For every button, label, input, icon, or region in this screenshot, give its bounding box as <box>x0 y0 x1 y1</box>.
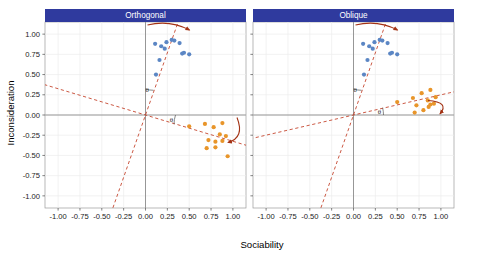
data-point-orange-cluster <box>213 140 217 144</box>
x-tick-label-6: 0.50 <box>390 212 405 221</box>
x-tick-label-0: -1.00 <box>257 212 274 221</box>
x-tick-label-7: 0.75 <box>412 212 427 221</box>
x-tick-label-5: 0.25 <box>160 212 175 221</box>
data-point-blue-cluster <box>365 58 369 62</box>
data-point-blue-cluster <box>154 72 158 76</box>
x-tick-label-2: -0.50 <box>301 212 318 221</box>
x-tick-label-6: 0.50 <box>182 212 197 221</box>
data-point-blue-cluster <box>371 47 375 51</box>
data-point-blue-cluster <box>385 41 389 45</box>
data-point-blue-cluster <box>153 42 157 46</box>
data-point-orange-cluster <box>206 138 210 142</box>
y-tick-label-0: -1.00 <box>23 192 40 201</box>
y-tick-label-7: 0.75 <box>25 50 40 59</box>
data-point-blue-cluster <box>367 44 371 48</box>
facet-header-label: Oblique <box>339 11 368 20</box>
facet-header-label: Orthogonal <box>125 11 166 20</box>
y-axis-title: Inconsideration <box>5 80 16 145</box>
data-point-orange-cluster <box>226 154 230 158</box>
x-tick-label-0: -1.00 <box>49 212 66 221</box>
data-point-orange-cluster <box>224 134 228 138</box>
x-axis-title: Sociability <box>240 239 283 250</box>
x-tick-label-2: -0.50 <box>93 212 110 221</box>
y-tick-label-5: 0.25 <box>25 90 40 99</box>
data-point-orange-cluster <box>434 95 438 99</box>
data-point-orange-cluster <box>205 146 209 150</box>
x-tick-label-7: 0.75 <box>204 212 219 221</box>
data-point-orange-cluster <box>428 88 432 92</box>
y-tick-label-2: -0.50 <box>23 151 40 160</box>
x-tick-label-1: -0.75 <box>279 212 296 221</box>
y-tick-label-3: -0.25 <box>23 131 40 140</box>
data-point-blue-cluster <box>182 51 186 55</box>
x-tick-label-4: 0.00 <box>346 212 361 221</box>
x-tick-label-3: -0.25 <box>323 212 340 221</box>
y-tick-label-1: -0.75 <box>23 171 40 180</box>
data-point-blue-cluster <box>157 58 161 62</box>
data-point-blue-cluster <box>164 40 168 44</box>
data-point-orange-cluster <box>220 121 224 125</box>
data-point-orange-cluster <box>395 100 399 104</box>
data-point-blue-cluster <box>172 39 176 43</box>
facet-orthogonal: θθOrthogonal-1.00-0.75-0.50-0.250.000.25… <box>23 6 264 224</box>
data-point-orange-cluster <box>220 139 224 143</box>
x-tick-label-5: 0.25 <box>368 212 383 221</box>
y-tick-label-8: 1.00 <box>25 30 40 39</box>
data-point-blue-cluster <box>187 52 191 56</box>
x-tick-label-8: 1.00 <box>434 212 449 221</box>
data-point-blue-cluster <box>177 41 181 45</box>
data-point-orange-cluster <box>218 132 222 136</box>
data-point-blue-cluster <box>361 42 365 46</box>
data-point-blue-cluster <box>390 51 394 55</box>
data-point-orange-cluster <box>413 110 417 114</box>
chart-figure: θθOrthogonal-1.00-0.75-0.50-0.250.000.25… <box>0 0 477 253</box>
facet-oblique: θθOblique-1.00-0.75-0.50-0.250.000.250.5… <box>233 6 474 224</box>
data-point-orange-cluster <box>187 124 191 128</box>
data-point-orange-cluster <box>203 122 207 126</box>
y-tick-label-4: 0.00 <box>25 111 40 120</box>
x-tick-label-8: 1.00 <box>226 212 241 221</box>
data-point-orange-cluster <box>411 96 415 100</box>
data-point-orange-cluster <box>213 145 217 149</box>
data-point-orange-cluster <box>432 102 436 106</box>
data-point-orange-cluster <box>212 125 216 129</box>
data-point-blue-cluster <box>163 47 167 51</box>
data-point-orange-cluster <box>414 103 418 107</box>
data-point-blue-cluster <box>159 44 163 48</box>
data-point-blue-cluster <box>395 52 399 56</box>
data-point-orange-cluster <box>428 102 432 106</box>
data-point-blue-cluster <box>362 72 366 76</box>
x-tick-label-1: -0.75 <box>71 212 88 221</box>
data-point-orange-cluster <box>421 108 425 112</box>
x-tick-label-3: -0.25 <box>115 212 132 221</box>
data-point-orange-cluster <box>420 91 424 95</box>
data-point-blue-cluster <box>372 40 376 44</box>
scatter-plot-svg: θθOrthogonal-1.00-0.75-0.50-0.250.000.25… <box>0 0 477 253</box>
y-tick-label-6: 0.50 <box>25 70 40 79</box>
data-point-blue-cluster <box>380 39 384 43</box>
x-tick-label-4: 0.00 <box>138 212 153 221</box>
